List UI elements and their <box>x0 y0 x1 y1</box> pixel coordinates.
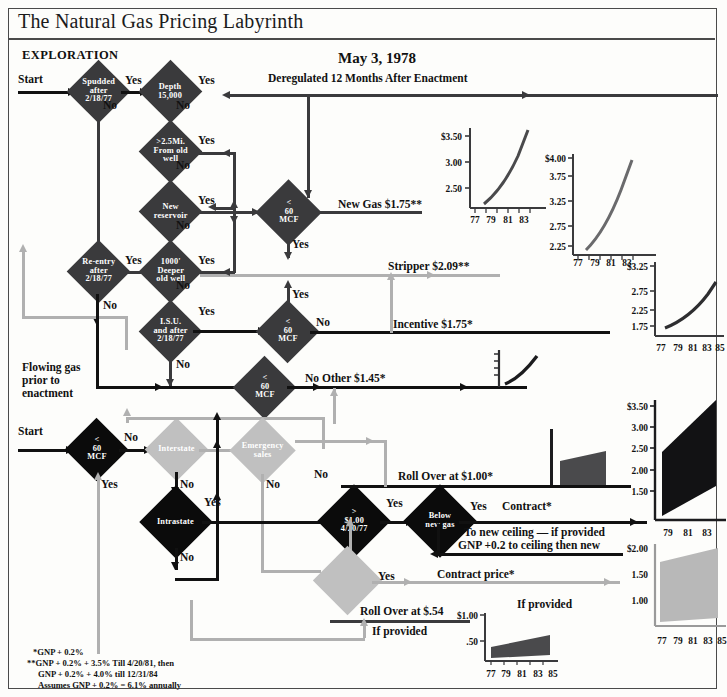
edge-rollover-gray-up <box>384 440 387 487</box>
chart-new-gas-xtick-1: 79 <box>486 215 496 225</box>
edge-mcf4-yes-down <box>97 478 100 654</box>
edge-gray-return-right <box>322 417 325 449</box>
edge-gray-return-left <box>126 417 129 423</box>
chart-cp-xtick-4: 85 <box>717 636 727 646</box>
chart-incentive-ytick-2: 2.25 <box>632 306 649 316</box>
chart-contract-ytick-4: 1.50 <box>632 487 649 497</box>
edge-reentry-to-deeper <box>121 271 150 274</box>
node-mcf-2-label: < 60 MCF <box>278 318 298 344</box>
node-reentry-label: Re-entry after 2/18/77 <box>82 258 115 284</box>
arrow-no-other-2 <box>460 383 468 391</box>
chart-contract-xtick-1: 81 <box>683 528 693 538</box>
node-below-new-gas-label: Below new gas <box>425 512 454 529</box>
arrow-rollover-gray <box>366 437 374 445</box>
chart-cp-xtick-2: 81 <box>688 636 698 646</box>
arrow-contract-price-1 <box>404 578 412 586</box>
chart-contract-ytick-2: 2.50 <box>632 444 649 454</box>
start-label-top: Start <box>18 73 43 86</box>
page-title: The Natural Gas Pricing Labyrinth <box>18 10 303 33</box>
chart-new-gas-xtick-2: 81 <box>503 215 513 225</box>
chart-stripper-ytick-0: $4.00 <box>545 154 566 164</box>
chart-new-gas-ytick-0: $3.50 <box>441 132 462 142</box>
chart-cp-ytick-2: 1.00 <box>632 596 649 606</box>
title-rule <box>8 38 715 40</box>
label-contract: Contract* <box>502 500 552 513</box>
chart-stripper-ytick-1: 3.75 <box>550 172 567 182</box>
node-isu-label: I.S.U. and after 2/18/77 <box>153 318 187 344</box>
label-no-other: No Other $1.45* <box>305 372 386 385</box>
edge-rollover-54-leftup <box>190 600 193 640</box>
chart-new-gas-ytick-1: 3.00 <box>446 158 463 168</box>
edge-label-intrastate-yes: Yes <box>204 496 221 509</box>
edge-label-deeper-no: No <box>176 279 190 292</box>
label-contract-price: Contract price* <box>437 568 515 581</box>
arrow-feedback-up-2 <box>213 440 221 448</box>
arrow-flowing-across <box>155 383 163 391</box>
edge-label-intrastate-no: No <box>180 551 194 564</box>
chart-ro54-xtick-1: 79 <box>501 669 511 679</box>
label-flowing-gas: Flowing gas prior to enactment <box>22 361 80 401</box>
chart-incentive-ytick-3: 1.75 <box>632 322 649 332</box>
edge-mcf1-newgas <box>312 211 422 214</box>
chart-cp-xtick-3: 83 <box>703 636 713 646</box>
chart-stripper-xtick-1: 79 <box>590 258 600 268</box>
edge-stripper-line <box>200 274 500 277</box>
label-stripper: Stripper $2.09** <box>388 260 470 273</box>
chart-stripper: $4.00 3.75 3.25 2.75 2.25 77 79 81 83 <box>518 150 658 266</box>
arrow-mcf1-yes-down <box>284 252 292 260</box>
label-incentive: Incentive $1.75* <box>393 318 473 331</box>
arrow-feedback-up-1 <box>213 412 221 420</box>
edge-label-mcf2-yes: Yes <box>292 288 309 301</box>
label-gnp-ceiling: GNP +0.2 to ceiling then new <box>458 539 600 552</box>
edge-label-interstate-no: No <box>180 478 194 491</box>
node-mcf-1-label: < 60 MCF <box>279 199 299 225</box>
arrow-gray-return-up <box>123 408 131 416</box>
arrow-gt25mi-yes <box>222 149 230 157</box>
edge-label-gt25mi-yes: Yes <box>198 134 215 147</box>
arrow-deregulated-left <box>222 91 230 99</box>
edge-emergency-no-across <box>261 570 321 573</box>
edge-gnp-return-line <box>437 553 623 556</box>
edge-label-mcf2-no: No <box>316 316 330 329</box>
chart-new-gas-xtick-0: 77 <box>470 215 480 225</box>
chart-contract-xtick-2: 83 <box>702 528 712 538</box>
chart-new-gas-ytick-2: 2.50 <box>446 184 463 194</box>
edge-incentive-line <box>310 331 610 334</box>
chart-incentive-xtick-1: 79 <box>673 343 683 353</box>
footnote-4: Assumes GNP + 0.2% = 6.1% annually <box>38 679 181 691</box>
chart-cp-xtick-1: 79 <box>673 636 683 646</box>
edge-label-gt25mi-no: No <box>176 159 190 172</box>
edge-start-to-spudded <box>18 91 74 94</box>
chart-contract-ytick-3: 2.00 <box>632 466 649 476</box>
label-to-new-ceiling: To new ceiling — if provided <box>464 526 605 539</box>
chart-ro54-ytick-0: $1.00 <box>457 611 478 621</box>
start-label-mid: Start <box>18 425 43 438</box>
edge-incentive-up <box>390 278 393 333</box>
chart-incentive-xtick-0: 77 <box>656 343 666 353</box>
edge-left-gray-down <box>125 316 128 350</box>
node-intrastate-label: Intrastate <box>157 518 194 527</box>
chart-ro54-xtick-3: 83 <box>533 669 543 679</box>
chart-ro54-xtick-4: 85 <box>548 669 558 679</box>
edge-left-gray-across <box>22 316 127 319</box>
chart-contract-price-band: $2.00 1.50 1.00 77 79 81 83 85 <box>604 540 727 648</box>
chart-roll-over-54: $1.00 .50 77 79 81 83 85 <box>440 603 560 681</box>
chart-contract-band: $3.50 3.00 2.50 2.00 1.50 79 81 83 <box>604 398 727 540</box>
arrow-intrastate-no-down <box>171 562 179 570</box>
chart-incentive-xtick-3: 83 <box>702 343 712 353</box>
edge-label-deeper-yes: Yes <box>198 254 215 267</box>
chart-ro54-ytick-1: .50 <box>466 637 478 647</box>
edge-label-dollar-no: No <box>314 468 328 481</box>
chart-no-other <box>487 350 547 395</box>
arrow-no-other-gray-up <box>330 388 338 396</box>
chart-stripper-ytick-2: 3.25 <box>550 197 567 207</box>
edge-left-gray-up <box>22 250 25 318</box>
edge-label-emergency-no: No <box>266 478 280 491</box>
edge-feedback-vertical <box>216 418 219 528</box>
edge-label-mcf4-no: No <box>124 431 138 444</box>
arrow-incentive-up <box>387 272 395 280</box>
node-mcf-3-label: < 60 MCF <box>255 374 275 400</box>
edge-deregulated-line <box>228 94 718 97</box>
section-label-exploration: EXPLORATION <box>22 48 119 63</box>
chart-contract-ytick-1: 3.00 <box>632 423 649 433</box>
